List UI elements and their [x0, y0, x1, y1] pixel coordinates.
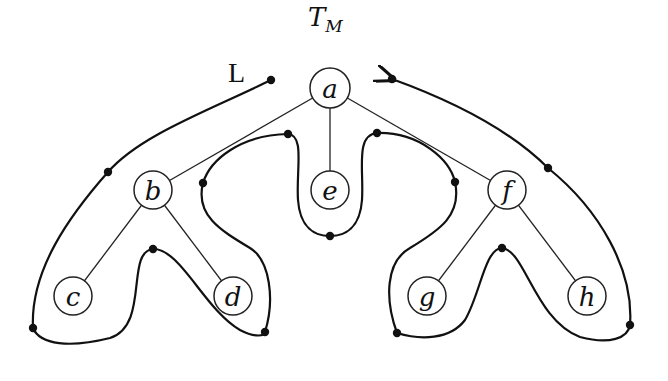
tree-title: TM: [308, 2, 343, 36]
tour-dot: [451, 178, 459, 186]
tour-dot: [261, 328, 269, 336]
node-h: h: [568, 277, 606, 315]
edge-f-g: [427, 190, 507, 296]
tour-dot: [544, 164, 552, 172]
tour-dot: [267, 76, 275, 84]
node-c: c: [54, 277, 92, 315]
tour-label: L: [228, 57, 245, 88]
tour-dot: [29, 324, 37, 332]
node-a: a: [310, 68, 350, 108]
node-e: e: [311, 171, 349, 209]
node-label: c: [66, 282, 81, 312]
diagram-canvas: abefcdgh TM L: [0, 0, 668, 381]
edge-a-b: [153, 88, 330, 190]
node-label: d: [225, 282, 242, 312]
tour-dot: [388, 75, 396, 83]
tour-dot: [149, 245, 157, 253]
edge-f-h: [507, 190, 587, 296]
edge-b-c: [73, 190, 153, 296]
tour-dot: [498, 244, 506, 252]
tour-dot: [393, 329, 401, 337]
node-label: a: [322, 74, 338, 104]
tour-dot: [284, 130, 292, 138]
node-b: b: [134, 171, 172, 209]
tour-dot: [199, 179, 207, 187]
node-f: f: [488, 171, 526, 209]
node-label: e: [322, 176, 337, 206]
node-label: g: [419, 282, 436, 312]
node-label: b: [145, 176, 162, 206]
edge-a-f: [330, 88, 507, 190]
node-label: h: [579, 282, 596, 312]
euler-tour-diagram: abefcdgh TM L: [0, 0, 668, 381]
tour-dot: [104, 168, 112, 176]
tour-dot: [373, 129, 381, 137]
node-g: g: [408, 277, 446, 315]
tour-dot: [626, 321, 634, 329]
tour-dot: [326, 232, 334, 240]
euler-tour-path: [33, 79, 630, 344]
node-d: d: [214, 277, 252, 315]
